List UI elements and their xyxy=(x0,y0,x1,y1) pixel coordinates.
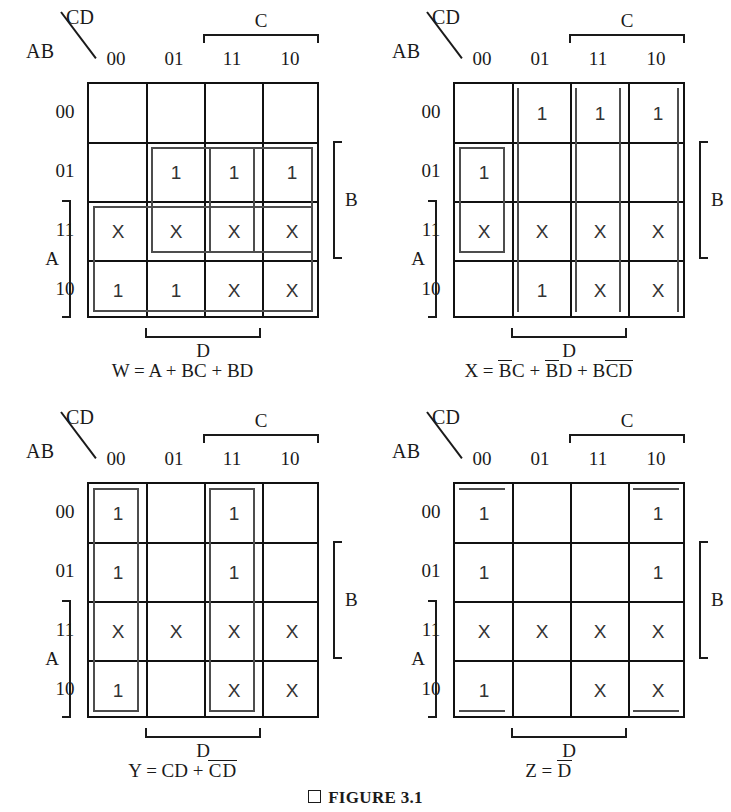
kmap-cell: X xyxy=(205,202,263,261)
bracket-a: A xyxy=(405,200,445,318)
kmap-cell: 1 xyxy=(629,543,687,602)
kmap-cell xyxy=(455,84,513,143)
corner-label-ab: AB xyxy=(392,440,420,463)
bracket-c-tick-left xyxy=(569,434,571,443)
square-bullet-icon xyxy=(308,790,321,803)
bracket-d-label: D xyxy=(145,740,261,762)
bracket-b-label: B xyxy=(711,189,724,211)
bracket-b-label: B xyxy=(345,589,358,611)
bracket-d-tick-right xyxy=(625,728,627,737)
row-header-00: 00 xyxy=(414,501,448,523)
bracket-a-tick-bottom xyxy=(62,716,71,718)
equation-term-overbar: CD xyxy=(605,360,632,382)
kmap-cell xyxy=(263,484,321,543)
bracket-d-bar xyxy=(145,736,261,738)
kmap-cell: X xyxy=(89,202,147,261)
equation-term: D + B xyxy=(559,360,606,381)
bracket-a-tick-bottom xyxy=(428,716,437,718)
bracket-d-label: D xyxy=(511,740,627,762)
bracket-a: A xyxy=(39,600,79,718)
kmap-cell: X xyxy=(629,661,687,720)
kmap-cell xyxy=(571,543,629,602)
kmap-cell: 1 xyxy=(455,484,513,543)
bracket-c-tick-left xyxy=(203,434,205,443)
bracket-d-bar xyxy=(145,336,261,338)
bracket-a-bar xyxy=(69,600,71,718)
equation-term: Z = xyxy=(525,760,557,781)
kmap-cell: 1 xyxy=(89,543,147,602)
bracket-a-tick-top xyxy=(62,600,71,602)
kmap-cell: X xyxy=(263,602,321,661)
column-headers: 00011110 xyxy=(87,48,319,72)
bracket-a-tick-top xyxy=(428,200,437,202)
kmap-cell: 1 xyxy=(205,484,263,543)
column-header-10: 10 xyxy=(627,48,685,70)
bracket-a-tick-bottom xyxy=(62,316,71,318)
bracket-b-tick-top xyxy=(699,141,708,143)
bracket-b-tick-bottom xyxy=(333,657,342,659)
column-headers: 00011110 xyxy=(453,48,685,72)
bracket-d: D xyxy=(511,728,627,758)
column-header-11: 11 xyxy=(569,48,627,70)
kmap-cell: X xyxy=(205,661,263,720)
kmap-cell: 1 xyxy=(629,484,687,543)
kmap-cell: X xyxy=(263,261,321,320)
kmap-cell: X xyxy=(263,661,321,720)
column-header-00: 00 xyxy=(453,48,511,70)
bracket-c-tick-right xyxy=(683,434,685,443)
kmap-cell xyxy=(455,261,513,320)
equation-term-overbar: B xyxy=(545,360,559,382)
bracket-c-label: C xyxy=(569,10,685,32)
kmap-cell: X xyxy=(89,602,147,661)
bracket-b-bar xyxy=(699,541,701,659)
kmap-z: CDAB00011110000111101111XXXX1XXCDBA xyxy=(366,400,731,812)
bracket-c-bar xyxy=(569,434,685,436)
kmap-cell: 1 xyxy=(513,84,571,143)
kmap-cell xyxy=(89,143,147,202)
kmap-x: CDAB00011110000111101111XXXX1XXCDBA xyxy=(366,0,731,400)
bracket-a-bar xyxy=(435,200,437,318)
kmap-equation-y: Y = CD + CD xyxy=(0,760,365,782)
column-header-01: 01 xyxy=(511,48,569,70)
bracket-b-tick-top xyxy=(333,141,342,143)
corner-label-ab: AB xyxy=(26,440,54,463)
corner-label-ab: AB xyxy=(26,40,54,63)
column-header-10: 10 xyxy=(627,448,685,470)
kmap-figure: CDAB0001111000011110111XXXX11XXCDBACDAB0… xyxy=(0,0,731,812)
bracket-b: B xyxy=(325,141,365,259)
bracket-c: C xyxy=(203,22,319,48)
kmap-equation-z: Z = D xyxy=(366,760,731,782)
column-header-00: 00 xyxy=(87,448,145,470)
kmap-cell: 1 xyxy=(629,84,687,143)
kmap-cell: 1 xyxy=(455,661,513,720)
kmap-cell xyxy=(513,661,571,720)
kmap-grid: 1111XXXX1XX xyxy=(453,482,685,718)
bracket-a-label: A xyxy=(45,648,59,670)
bracket-a-bar xyxy=(435,600,437,718)
kmap-cell: 1 xyxy=(205,543,263,602)
bracket-c-tick-right xyxy=(683,34,685,43)
kmap-cell: X xyxy=(455,602,513,661)
bracket-c-tick-right xyxy=(317,34,319,43)
bracket-a: A xyxy=(405,600,445,718)
bracket-c-bar xyxy=(203,434,319,436)
kmap-cell: 1 xyxy=(147,261,205,320)
kmap-cell: 1 xyxy=(263,143,321,202)
equation-term: C + xyxy=(512,360,545,381)
bracket-c-bar xyxy=(203,34,319,36)
row-header-00: 00 xyxy=(48,101,82,123)
bracket-a-tick-top xyxy=(428,600,437,602)
bracket-d-tick-left xyxy=(145,328,147,337)
equation-term: W = A + BC + BD xyxy=(112,360,254,381)
column-header-10: 10 xyxy=(261,448,319,470)
bracket-c-label: C xyxy=(569,410,685,432)
kmap-cell: 1 xyxy=(571,84,629,143)
bracket-a-bar xyxy=(69,200,71,318)
bracket-d: D xyxy=(511,328,627,358)
kmap-cell: X xyxy=(147,202,205,261)
kmap-cell xyxy=(263,543,321,602)
bracket-b-bar xyxy=(333,141,335,259)
kmap-cell: 1 xyxy=(513,261,571,320)
bracket-a-tick-bottom xyxy=(428,316,437,318)
kmap-cell: X xyxy=(629,202,687,261)
